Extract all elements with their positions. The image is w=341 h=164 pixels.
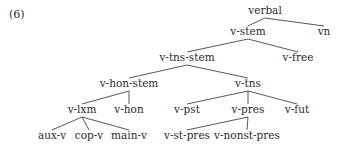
node-vn: vn	[317, 25, 331, 37]
node-v-hon: v-hon	[113, 103, 144, 115]
node-v-tns-stem: v-tns-stem	[158, 51, 214, 63]
node-v-hon-stem: v-hon-stem	[99, 77, 159, 89]
example-number: (6)	[9, 8, 25, 21]
node-aux-v: aux-v	[38, 129, 66, 141]
type-hierarchy-diagram: (6) verbal v-stem vn v-tns-stem v-free v…	[0, 0, 341, 164]
node-v-pst: v-pst	[173, 103, 201, 115]
node-v-free: v-free	[282, 51, 314, 63]
node-v-lxm: v-lxm	[67, 103, 97, 115]
node-v-tns: v-tns	[234, 77, 261, 89]
node-cop-v: cop-v	[75, 129, 103, 141]
node-v-stem: v-stem	[229, 25, 265, 37]
node-v-st-pres: v-st-pres	[163, 129, 210, 141]
node-main-v: main-v	[111, 129, 147, 141]
node-v-nonst-pres: v-nonst-pres	[213, 129, 280, 141]
node-v-pres: v-pres	[231, 103, 265, 115]
node-v-fut: v-fut	[284, 103, 310, 115]
tree-edge	[265, 18, 324, 26]
node-verbal: verbal	[247, 4, 282, 16]
tree-nodes: verbal v-stem vn v-tns-stem v-free v-hon…	[38, 4, 331, 141]
